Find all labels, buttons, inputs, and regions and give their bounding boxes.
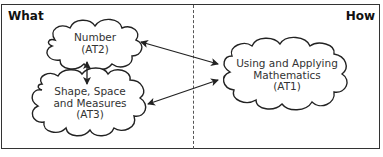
node-shape-title-1: Shape, Space [40, 86, 140, 98]
arrow-number-using [141, 42, 218, 64]
node-number-title: Number [55, 32, 135, 44]
node-using-label: Using and Applying Mathematics (AT1) [228, 58, 346, 93]
node-number-code: (AT2) [55, 44, 135, 56]
node-shape-code: (AT3) [40, 109, 140, 121]
node-using-code: (AT1) [228, 81, 346, 93]
node-number-label: Number (AT2) [55, 32, 135, 55]
node-shape-label: Shape, Space and Measures (AT3) [40, 86, 140, 121]
arrow-shape-using [148, 80, 218, 104]
node-using-title-1: Using and Applying [228, 58, 346, 70]
